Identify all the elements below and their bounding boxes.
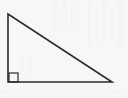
- scan-artifact: [0, 90, 128, 92]
- scan-artifact: [101, 0, 106, 40]
- scan-artifact: [118, 0, 122, 46]
- scan-artifact: [76, 0, 78, 28]
- scan-artifact: [30, 58, 32, 76]
- figure-canvas: Right Triangle A right triangle with the…: [0, 0, 128, 98]
- scan-artifact: [63, 0, 67, 30]
- scan-artifact: [110, 6, 113, 40]
- scan-artifact: [20, 56, 23, 76]
- scan-artifact: [52, 0, 55, 34]
- scan-artifact: [58, 4, 60, 30]
- scan-artifact: [4, 94, 114, 95]
- scan-artifact: [70, 6, 73, 28]
- right-triangle-figure: Right Triangle A right triangle with the…: [0, 0, 128, 98]
- scan-artifact: [88, 2, 92, 46]
- scan-artifact: [95, 8, 98, 44]
